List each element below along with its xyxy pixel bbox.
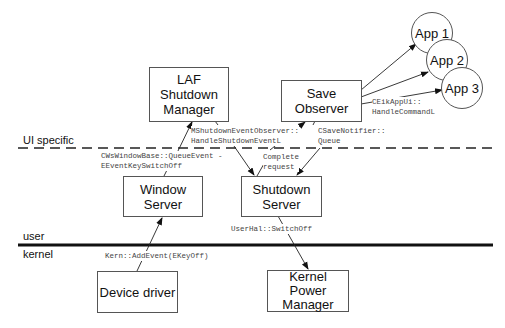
shutdown-architecture-diagram: UI specific user kernel LAF Shutdown Man… xyxy=(0,0,505,328)
label-switch-off: UserHal::SwitchOff xyxy=(231,224,312,234)
kernel-power-manager-box: Kernel Power Manager xyxy=(267,270,349,312)
label-add-event: Kern::AddEvent(EKeyOff) xyxy=(105,251,209,261)
label-queue-event: CWsWindowBase::QueueEvent - EEventKeySwi… xyxy=(101,151,223,171)
app-3-circle: App 3 xyxy=(441,67,483,109)
label-complete-request: Complete request xyxy=(263,152,299,172)
save-observer-box: Save Observer xyxy=(281,80,362,122)
arrow-save-to-app2 xyxy=(361,72,428,97)
arrow-laf-to-shutdown xyxy=(234,146,254,175)
zone-label-user: user xyxy=(23,230,44,242)
shutdown-server-box: Shutdown Server xyxy=(241,176,322,217)
device-driver-box: Device driver xyxy=(97,271,178,313)
label-save-notifier-queue: CSaveNotifier:: Queue xyxy=(318,126,386,146)
label-handle-command: CEikAppUi:: HandleCommandL xyxy=(372,97,435,117)
laf-shutdown-manager-box: LAF Shutdown Manager xyxy=(149,67,229,122)
label-handle-shutdown-event: MShutdownEventObserver:: HandleShutdownE… xyxy=(191,126,299,146)
zone-label-kernel: kernel xyxy=(23,248,53,260)
zone-label-ui-specific: UI specific xyxy=(23,134,74,146)
arrow-save-to-app1 xyxy=(361,44,416,90)
arrow-save-to-shutdown xyxy=(297,148,320,175)
window-server-box: Window Server xyxy=(123,176,203,217)
